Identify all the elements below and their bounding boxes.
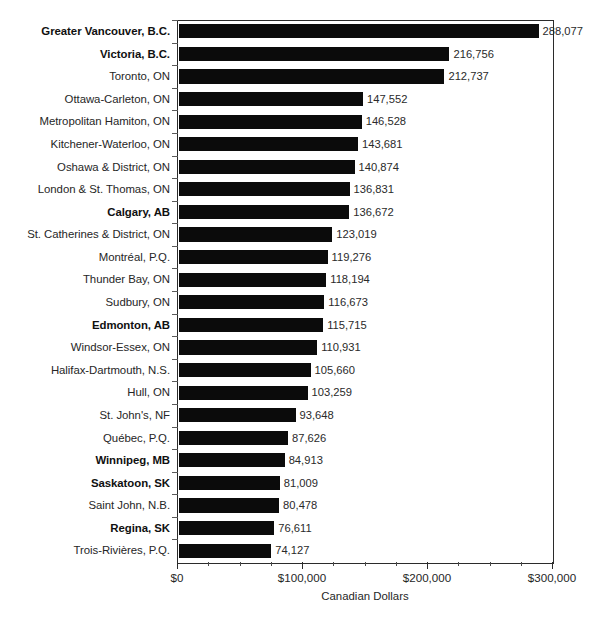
bar-rows: Greater Vancouver, B.C.288,077Victoria, … [0, 20, 603, 562]
bar-row: Québec, P.Q.87,626 [0, 427, 603, 450]
x-axis-major-tick [427, 562, 428, 569]
bar-value-label: 110,931 [321, 336, 361, 359]
y-axis-tick [172, 223, 178, 224]
bar-row: Ottawa-Carleton, ON147,552 [0, 88, 603, 111]
bar [179, 363, 311, 377]
bar-value-label: 123,019 [336, 223, 376, 246]
y-axis-tick [172, 404, 178, 405]
bar-row: Winnipeg, MB84,913 [0, 449, 603, 472]
y-axis-tick [172, 246, 178, 247]
bar-value-label: 105,660 [315, 359, 355, 382]
bar-category-label: St. Catherines & District, ON [0, 223, 170, 246]
y-axis-tick [172, 359, 178, 360]
bar-row: Montréal, P.Q.119,276 [0, 246, 603, 269]
bar-row: Greater Vancouver, B.C.288,077 [0, 20, 603, 43]
bar-value-label: 118,194 [330, 268, 370, 291]
bar [179, 160, 355, 174]
bar-category-label: Edmonton, AB [0, 314, 170, 337]
x-axis-minor-tick [240, 562, 241, 566]
bar-category-label: Regina, SK [0, 517, 170, 540]
bar [179, 182, 350, 196]
bar-value-label: 103,259 [312, 381, 352, 404]
bar-value-label: 93,648 [300, 404, 334, 427]
x-axis-tick-label: $200,000 [403, 571, 451, 584]
y-axis-tick [172, 178, 178, 179]
bar-category-label: Thunder Bay, ON [0, 268, 170, 291]
y-axis-tick [172, 291, 178, 292]
bar [179, 386, 308, 400]
x-axis-major-tick [552, 562, 553, 569]
bar-value-label: 136,672 [353, 201, 393, 224]
bar-value-label: 84,913 [289, 449, 323, 472]
bar-category-label: Sudbury, ON [0, 291, 170, 314]
bar-category-label: Saint John, N.B. [0, 494, 170, 517]
y-axis-tick [172, 88, 178, 89]
bar-category-label: Metropolitan Hamiton, ON [0, 110, 170, 133]
x-axis-minor-tick [396, 562, 397, 566]
bar-category-label: St. John's, NF [0, 404, 170, 427]
x-axis-minor-tick [208, 562, 209, 566]
y-axis-tick [172, 110, 178, 111]
bar [179, 69, 445, 83]
bar-category-label: Trois-Rivières, P.Q. [0, 539, 170, 562]
bar-category-label: Victoria, B.C. [0, 43, 170, 66]
x-axis-minor-tick [521, 562, 522, 566]
x-axis-minor-tick [490, 562, 491, 566]
bar-category-label: Montréal, P.Q. [0, 246, 170, 269]
bar [179, 273, 327, 287]
bar-row: Kitchener-Waterloo, ON143,681 [0, 133, 603, 156]
y-axis-tick [172, 381, 178, 382]
bar-row: St. John's, NF93,648 [0, 404, 603, 427]
bar-value-label: 136,831 [354, 178, 394, 201]
bar-row: St. Catherines & District, ON123,019 [0, 223, 603, 246]
x-axis-major-tick [302, 562, 303, 569]
bar [179, 227, 333, 241]
bar-category-label: Kitchener-Waterloo, ON [0, 133, 170, 156]
y-axis-tick [172, 449, 178, 450]
bar-row: Sudbury, ON116,673 [0, 291, 603, 314]
x-axis-minor-tick [271, 562, 272, 566]
bar-category-label: London & St. Thomas, ON [0, 178, 170, 201]
x-axis-minor-tick [458, 562, 459, 566]
bar-value-label: 140,874 [359, 156, 399, 179]
bar-value-label: 147,552 [367, 88, 407, 111]
bar [179, 521, 275, 535]
y-axis-tick [172, 427, 178, 428]
bar-category-label: Oshawa & District, ON [0, 156, 170, 179]
bar-row: Hull, ON103,259 [0, 381, 603, 404]
bar [179, 295, 325, 309]
bar [179, 453, 285, 467]
bar-row: Thunder Bay, ON118,194 [0, 268, 603, 291]
y-axis-tick [172, 517, 178, 518]
bar-row: Calgary, AB136,672 [0, 201, 603, 224]
bar [179, 115, 362, 129]
x-axis-major-tick [177, 562, 178, 569]
bar-value-label: 288,077 [543, 20, 583, 43]
bar [179, 47, 450, 61]
bar-category-label: Québec, P.Q. [0, 427, 170, 450]
bar-value-label: 81,009 [284, 472, 318, 495]
bar-category-label: Ottawa-Carleton, ON [0, 88, 170, 111]
bar-value-label: 116,673 [328, 291, 368, 314]
bar [179, 137, 359, 151]
bar-chart: Greater Vancouver, B.C.288,077Victoria, … [0, 0, 603, 620]
bar-value-label: 212,737 [448, 65, 488, 88]
y-axis-tick [172, 336, 178, 337]
bar [179, 498, 280, 512]
bar [179, 431, 289, 445]
bar [179, 340, 318, 354]
bar [179, 250, 328, 264]
y-axis-tick [172, 201, 178, 202]
x-axis: Canadian Dollars $0$100,000$200,000$300,… [177, 562, 553, 620]
bar-row: Victoria, B.C.216,756 [0, 43, 603, 66]
bar [179, 92, 363, 106]
bar-value-label: 80,478 [283, 494, 317, 517]
bar-row: Trois-Rivières, P.Q.74,127 [0, 539, 603, 562]
bar-category-label: Calgary, AB [0, 201, 170, 224]
bar-value-label: 146,528 [366, 110, 406, 133]
bar-category-label: Winnipeg, MB [0, 449, 170, 472]
bar-row: Halifax-Dartmouth, N.S.105,660 [0, 359, 603, 382]
x-axis-minor-tick [333, 562, 334, 566]
bar-row: Oshawa & District, ON140,874 [0, 156, 603, 179]
y-axis-tick [172, 20, 178, 21]
